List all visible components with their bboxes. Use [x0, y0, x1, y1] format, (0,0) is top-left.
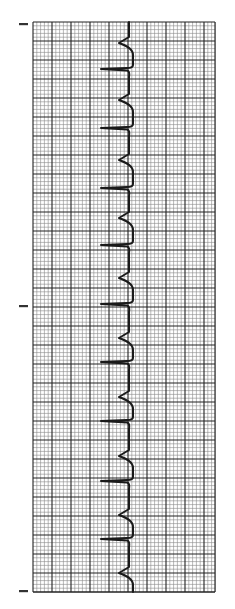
bottom-marker — [19, 590, 28, 592]
top-marker — [19, 23, 28, 25]
ecg-strip — [0, 0, 235, 609]
middle-marker — [19, 305, 28, 307]
